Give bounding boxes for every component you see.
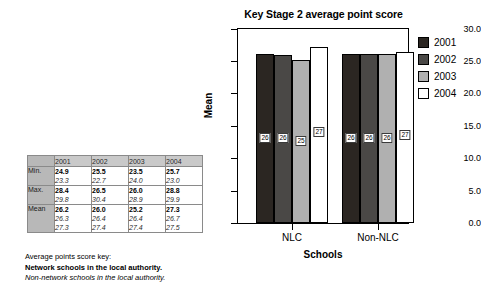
table-cell-min-2002: 25.5 22.7 [92, 167, 129, 186]
stats-table: 2001 2002 2003 2004 Min. 24.9 23.3 25.5 … [27, 155, 203, 233]
key-network-schools: Network schools in the local authority. [25, 263, 165, 274]
stats-table-container: 2001 2002 2003 2004 Min. 24.9 23.3 25.5 … [27, 155, 203, 233]
table-cell-max-2002: 26.5 30.4 [92, 186, 129, 205]
y-axis-label: Mean [203, 56, 214, 156]
cell-value-italic: 26.7 [166, 214, 202, 223]
table-row: Min. 24.9 23.3 25.5 22.7 23.5 24.0 25.7 … [28, 167, 203, 186]
cell-value-bold: 24.9 [55, 167, 91, 176]
table-cell-min-2004: 25.7 23.0 [166, 167, 203, 186]
y-tick-mark-0 [231, 223, 237, 224]
bar-group-non-nlc: 26 26 26 27 [342, 29, 414, 223]
x-tick-label-nlc: NLC [257, 232, 327, 243]
chart-panel: Key Stage 2 average point score Mean 30.… [196, 4, 481, 292]
bars-layer: 26 26 25 27 26 26 26 27 [238, 29, 408, 223]
y-tick-label-15: 15.0 [447, 121, 481, 131]
key-title: Average points score key: [25, 252, 165, 263]
legend-swatch-2002 [418, 54, 429, 65]
table-cell-max-2001: 28.4 29.8 [55, 186, 92, 205]
cell-value-third: 27.4 [92, 223, 128, 232]
y-tick-mark-10 [231, 158, 237, 159]
table-cell-mean-2004: 27.3 26.7 27.5 [166, 205, 203, 233]
y-tick-mark-25 [231, 61, 237, 62]
table-row: Mean 26.2 26.3 27.3 26.0 26.4 27.4 25.2 … [28, 205, 203, 233]
y-tick-label-0: 0.0 [447, 218, 481, 228]
y-tick-mark-30 [231, 29, 237, 30]
bar-label-non-nlc-2004: 27 [399, 130, 410, 140]
cell-value-italic: 26.4 [92, 214, 128, 223]
table-cell-min-2003: 23.5 24.0 [129, 167, 166, 186]
cell-value-italic: 28.9 [129, 195, 165, 204]
cell-value-third: 27.4 [129, 223, 165, 232]
cell-value-italic: 22.7 [92, 176, 128, 185]
cell-value-third: 27.5 [166, 223, 202, 232]
cell-value-bold: 26.2 [55, 205, 91, 214]
legend-item-2003[interactable]: 2003 [418, 68, 456, 85]
y-tick-label-30: 30.0 [447, 24, 481, 34]
table-cell-max-2004: 28.8 29.9 [166, 186, 203, 205]
x-axis-label: Schools [237, 249, 409, 260]
bar-label-non-nlc-2002: 26 [363, 133, 374, 143]
cell-value-bold: 28.8 [166, 186, 202, 195]
bar-label-non-nlc-2001: 26 [345, 133, 356, 143]
y-tick-label-10: 10.0 [447, 153, 481, 163]
legend-label-2004: 2004 [434, 88, 456, 99]
bar-non-nlc-2002[interactable]: 26 [360, 54, 378, 223]
chart-legend: 2001 2002 2003 2004 [418, 34, 456, 102]
bar-label-nlc-2003: 25 [295, 136, 306, 146]
bar-group-nlc: 26 26 25 27 [256, 29, 328, 223]
table-corner-header [28, 156, 55, 167]
legend-label-2002: 2002 [434, 54, 456, 65]
bar-label-non-nlc-2003: 26 [381, 133, 392, 143]
cell-value-italic: 26.3 [55, 214, 91, 223]
table-col-header-2004: 2004 [166, 156, 203, 167]
cell-value-italic: 29.9 [166, 195, 202, 204]
bar-nlc-2004[interactable]: 27 [310, 47, 328, 223]
cell-value-bold: 23.5 [129, 167, 165, 176]
cell-value-italic: 30.4 [92, 195, 128, 204]
cell-value-bold: 28.4 [55, 186, 91, 195]
chart-title: Key Stage 2 average point score [216, 8, 431, 20]
cell-value-italic: 29.8 [55, 195, 91, 204]
bar-non-nlc-2001[interactable]: 26 [342, 54, 360, 223]
table-row-label-min: Min. [28, 167, 55, 186]
table-row-label-max: Max. [28, 186, 55, 205]
table-col-header-2001: 2001 [55, 156, 92, 167]
bar-nlc-2001[interactable]: 26 [256, 54, 274, 223]
table-row-label-mean: Mean [28, 205, 55, 233]
legend-swatch-2003 [418, 71, 429, 82]
x-tick-mark-non-nlc [378, 224, 379, 230]
legend-item-2002[interactable]: 2002 [418, 51, 456, 68]
bar-non-nlc-2004[interactable]: 27 [396, 52, 414, 223]
cell-value-bold: 25.2 [129, 205, 165, 214]
cell-value-bold: 27.3 [166, 205, 202, 214]
table-header-row: 2001 2002 2003 2004 [28, 156, 203, 167]
bar-label-nlc-2001: 26 [259, 133, 270, 143]
cell-value-italic: 23.0 [166, 176, 202, 185]
table-cell-max-2003: 26.0 28.9 [129, 186, 166, 205]
cell-value-italic: 24.0 [129, 176, 165, 185]
bar-nlc-2003[interactable]: 25 [292, 60, 310, 223]
key-non-network-schools: Non-network schools in the local authori… [25, 273, 165, 284]
cell-value-third: 27.3 [55, 223, 91, 232]
cell-value-bold: 26.0 [129, 186, 165, 195]
y-tick-mark-5 [231, 191, 237, 192]
y-tick-label-5: 5.0 [447, 186, 481, 196]
y-tick-mark-20 [231, 93, 237, 94]
cell-value-bold: 25.5 [92, 167, 128, 176]
legend-item-2004[interactable]: 2004 [418, 85, 456, 102]
table-cell-mean-2002: 26.0 26.4 27.4 [92, 205, 129, 233]
legend-swatch-2001 [418, 37, 429, 48]
table-cell-min-2001: 24.9 23.3 [55, 167, 92, 186]
bar-nlc-2002[interactable]: 26 [274, 55, 292, 223]
x-tick-mark-nlc [292, 224, 293, 230]
legend-swatch-2004 [418, 88, 429, 99]
legend-item-2001[interactable]: 2001 [418, 34, 456, 51]
cell-value-italic: 26.4 [129, 214, 165, 223]
table-col-header-2003: 2003 [129, 156, 166, 167]
cell-value-bold: 25.7 [166, 167, 202, 176]
cell-value-bold: 26.0 [92, 205, 128, 214]
cell-value-italic: 23.3 [55, 176, 91, 185]
average-points-score-key: Average points score key: Network school… [25, 252, 165, 284]
bar-non-nlc-2003[interactable]: 26 [378, 54, 396, 223]
table-cell-mean-2003: 25.2 26.4 27.4 [129, 205, 166, 233]
